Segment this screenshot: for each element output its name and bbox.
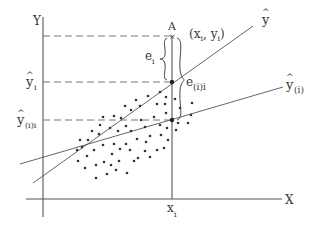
e-ii-label: e (i)i	[186, 75, 206, 92]
yhat-i-label: y ^ i	[25, 70, 37, 92]
yhat-line	[33, 26, 253, 183]
point-A-label: A	[167, 20, 177, 33]
yhat-i-point	[170, 118, 174, 122]
svg-text:(i): (i)	[294, 85, 304, 95]
xy-label: (xi, yi)	[189, 27, 225, 43]
svg-text:i: i	[152, 57, 155, 66]
yhat-point	[170, 80, 174, 84]
e-i-label: e i	[145, 49, 155, 66]
svg-text:(i)i: (i)i	[193, 82, 206, 92]
svg-text:i: i	[34, 83, 37, 92]
yhat-ii-label: y ^ (i)i	[16, 108, 37, 130]
x-tick-sub: i	[174, 210, 177, 219]
y-axis-label: Y	[32, 14, 42, 28]
svg-text:(i)i: (i)i	[25, 121, 37, 130]
svg-text:^: ^	[17, 108, 25, 118]
svg-text:^: ^	[286, 72, 294, 82]
point-A-marker: ×	[169, 32, 176, 41]
yhat-line-label: y ^	[261, 7, 270, 27]
x-axis-label: X	[285, 193, 294, 207]
svg-text:^: ^	[26, 70, 34, 80]
scatter-points	[76, 91, 194, 180]
regression-diagram: × Y X x i A (xi, yi) y ^ i y ^ (i)i y ^	[0, 0, 321, 234]
brace-e-i	[160, 38, 167, 80]
x-tick-label: x	[167, 201, 174, 215]
svg-text:^: ^	[262, 7, 270, 17]
yhat-i-line-label: y ^ (i)	[285, 72, 304, 95]
